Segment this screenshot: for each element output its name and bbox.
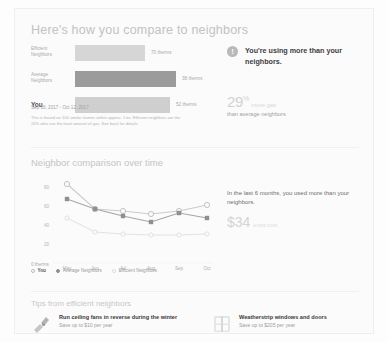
point-avg-may [65, 197, 69, 201]
bar-chart: EfficientNeighbors 70 therms AverageNeig… [31, 45, 221, 123]
point-you-aug [148, 211, 153, 216]
legend-label-average-neighbors: Average Neighbors [63, 268, 102, 273]
bar-row-efficient-neighbors: EfficientNeighbors 70 therms [31, 45, 221, 67]
legend-item-average-neighbors[interactable]: Average Neighbors [56, 268, 102, 273]
ceiling-fan-icon [31, 313, 53, 335]
xtick-oct: Oct [203, 266, 211, 271]
point-avg-jul [121, 214, 125, 218]
cost-callout-message: In the last 6 months, you used more than… [227, 189, 377, 207]
tip-item-weatherstrip[interactable]: Weatherstrip windows and doors Save up t… [211, 313, 376, 339]
series-efficient-neighbors-line [67, 218, 207, 235]
line-chart-svg: 80 60 40 20 0 therms [31, 175, 216, 271]
bar-value-you: 52 therms [176, 102, 196, 107]
fine-print: This is based on 100 similar homes withi… [31, 115, 181, 127]
point-eff-oct [205, 232, 209, 236]
legend-label-efficient-neighbors: Efficient Neighbors [119, 268, 157, 273]
cost-amount: $34 [227, 214, 250, 230]
legend-marker-average-neighbors [56, 269, 60, 273]
divider-one [31, 147, 359, 148]
bar-row-average-neighbors: AverageNeighbors 38 therms [31, 71, 221, 93]
report-page: Here's how you compare to neighbors Effi… [0, 0, 388, 342]
point-eff-jun [93, 230, 97, 234]
point-avg-oct [205, 216, 209, 220]
page-title: Here's how you compare to neighbors [31, 23, 248, 37]
point-avg-aug [149, 220, 153, 224]
date-range: Sep 16, 2017 - Oct 12, 2017 [31, 105, 89, 110]
point-eff-may [65, 216, 69, 220]
ytick-60: 60 [44, 204, 50, 209]
bar-fill-average-neighbors [75, 71, 176, 87]
point-eff-sep [177, 233, 181, 237]
tip-sub-ceiling-fan: Save up to $10 per year [59, 321, 195, 329]
tip-title-weatherstrip: Weatherstrip windows and doors [239, 313, 375, 321]
usage-callout-message: You're using more than your neighbors. [245, 45, 373, 67]
usage-stat-number: 29 [227, 93, 243, 110]
bar-fill-efficient-neighbors [75, 45, 145, 61]
line-chart: 80 60 40 20 0 therms [31, 175, 216, 271]
bar-value-average-neighbors: 38 therms [182, 76, 202, 81]
legend-marker-efficient-neighbors [112, 269, 116, 273]
bar-value-efficient-neighbors: 70 therms [151, 50, 171, 55]
legend-marker-you [31, 269, 35, 273]
point-avg-sep [177, 211, 181, 215]
info-icon [227, 46, 238, 57]
point-eff-aug [149, 233, 153, 237]
bar-label-efficient-neighbors: EfficientNeighbors [31, 46, 71, 58]
cost-amount-suffix: extra cost [253, 222, 277, 228]
bar-label-average-neighbors: AverageNeighbors [31, 72, 71, 84]
usage-stat: 29%more gas than average neighbors [227, 93, 377, 117]
tip-item-ceiling-fan[interactable]: Run ceiling fans in reverse during the w… [31, 313, 196, 339]
usage-stat-suffix: more gas [251, 102, 276, 108]
tips-title: Tips from efficient neighbors [31, 299, 131, 308]
window-icon [211, 313, 233, 335]
series-you-line [67, 184, 207, 214]
legend-item-efficient-neighbors[interactable]: Efficient Neighbors [112, 268, 157, 273]
tip-title-ceiling-fan: Run ceiling fans in reverse during the w… [59, 313, 195, 321]
ytick-20: 20 [44, 242, 50, 247]
point-you-may [64, 181, 69, 186]
comparison-card: Here's how you compare to neighbors Effi… [14, 8, 374, 334]
point-you-oct [204, 202, 209, 207]
legend-item-you[interactable]: You [31, 268, 46, 273]
usage-stat-sub: than average neighbors [227, 111, 377, 117]
xtick-sep: Sep [175, 266, 184, 271]
usage-stat-percent: % [243, 95, 249, 102]
usage-callout: You're using more than your neighbors. [227, 45, 375, 73]
cost-callout-stat: $34extra cost [227, 213, 377, 231]
point-eff-jul [121, 232, 125, 236]
chart-legend: You Average Neighbors Efficient Neighbor… [31, 268, 166, 273]
legend-label-you: You [38, 268, 46, 273]
bar-fill-you [75, 97, 170, 113]
point-you-jul [120, 208, 125, 213]
fine-print-link[interactable]: See back for details. [102, 121, 139, 126]
point-avg-jun [93, 207, 97, 211]
ytick-40: 40 [44, 223, 50, 228]
tip-sub-weatherstrip: Save up to $205 per year [239, 321, 375, 329]
ytick-80: 80 [44, 185, 50, 190]
chart-title: Neighbor comparison over time [31, 157, 163, 168]
ytick-zero: 0 therms [31, 262, 50, 267]
cost-callout: In the last 6 months, you used more than… [227, 189, 377, 231]
divider-two [31, 291, 359, 292]
